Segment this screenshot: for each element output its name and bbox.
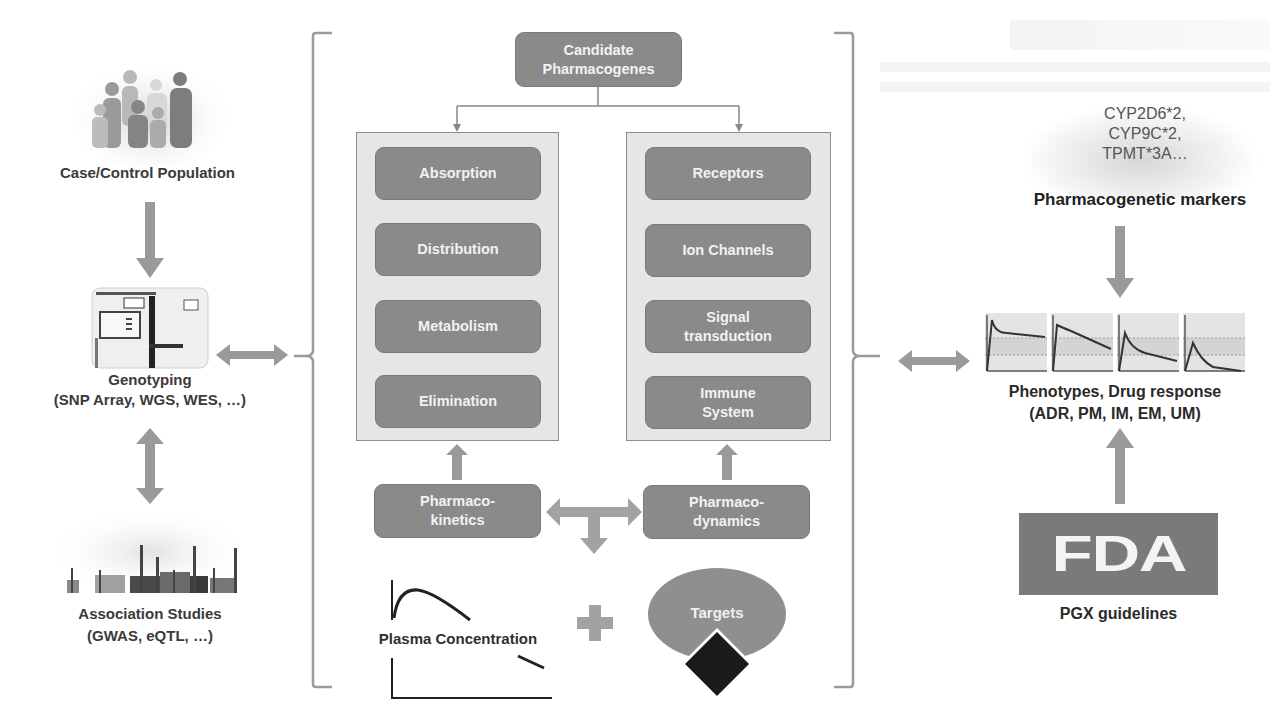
t-arrow-icon (546, 496, 642, 562)
association-title: Association Studies (20, 604, 280, 624)
root-line1: Candidate (563, 41, 633, 60)
double-arrow-horizontal-icon (216, 344, 288, 370)
pk-gene-box: Distribution (375, 223, 541, 276)
double-arrow-horizontal-icon (898, 350, 970, 376)
association-subtitle: (GWAS, eQTL, …) (20, 626, 280, 646)
pharmacokinetics-box: Pharmaco- kinetics (374, 484, 541, 538)
tree-connector (450, 86, 770, 136)
root-line2: Pharmacogenes (542, 60, 654, 79)
phenotype-title: Phenotypes, Drug response (975, 382, 1255, 402)
arrow-up-icon (716, 444, 738, 484)
fda-logo: FDA (1019, 513, 1218, 595)
fda-logo-text: FDA (1051, 525, 1186, 583)
arrow-down-icon (136, 202, 164, 284)
left-brace (292, 30, 334, 694)
arrow-up-icon (1106, 428, 1134, 508)
pd-gene-box: Immune System (645, 376, 811, 429)
plasma-label: Plasma Concentration (358, 630, 558, 647)
genotyping-subtitle: (SNP Array, WGS, WES, …) (20, 390, 280, 410)
pharmacodynamics-box: Pharmaco- dynamics (643, 485, 810, 539)
arrow-up-icon (446, 444, 468, 484)
pd-gene-box: Signal transduction (645, 300, 811, 353)
sequencer-image (92, 288, 208, 368)
targets-label: Targets (647, 604, 787, 621)
population-image (70, 55, 230, 165)
marker-item: TPMT*3A… (1060, 144, 1230, 164)
pd-gene-box: Receptors (645, 147, 811, 200)
genotyping-title: Genotyping (20, 370, 280, 390)
population-label: Case/Control Population (20, 163, 275, 183)
pk-gene-box: Absorption (375, 147, 541, 200)
arrow-down-icon (1106, 226, 1134, 302)
double-arrow-vertical-icon (136, 428, 164, 508)
candidate-pharmacogenes-box: Candidate Pharmacogenes (515, 32, 682, 87)
pd-gene-box: Ion Channels (645, 224, 811, 277)
right-brace (832, 30, 882, 694)
plus-icon (577, 605, 613, 645)
manhattan-plot-image (55, 510, 245, 595)
phenotype-subtitle: (ADR, PM, IM, EM, UM) (975, 404, 1255, 424)
pk-gene-box: Elimination (375, 375, 541, 428)
markers-label: Pharmacogenetic markers (1010, 190, 1270, 210)
pk-gene-box: Metabolism (375, 300, 541, 353)
phenotype-curves (985, 313, 1245, 375)
marker-list: CYP2D6*2, CYP9C*2, TPMT*3A… (1060, 104, 1230, 164)
fda-label: PGX guidelines (1019, 604, 1218, 624)
marker-item: CYP9C*2, (1060, 124, 1230, 144)
marker-item: CYP2D6*2, (1060, 104, 1230, 124)
